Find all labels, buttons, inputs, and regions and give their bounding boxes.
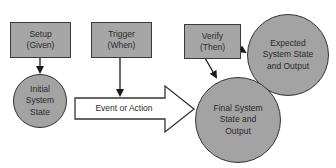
expected-state-label: Expected System State and Output: [263, 38, 314, 71]
edge-verify-to-final: [205, 58, 216, 77]
setup-node: Setup (Given): [10, 22, 71, 58]
final-state-label: Final System State and Output: [213, 103, 262, 136]
final-state-node: Final System State and Output: [195, 77, 281, 163]
trigger-label: Trigger (When): [108, 29, 136, 50]
verify-node: Verify (Then): [184, 24, 241, 59]
verify-label: Verify (Then): [200, 31, 225, 52]
trigger-node: Trigger (When): [91, 22, 152, 58]
initial-state-label: Initial System State: [26, 84, 54, 117]
event-arrow-label: Event or Action: [84, 103, 164, 113]
setup-label: Setup (Given): [27, 29, 55, 50]
initial-state-node: Initial System State: [13, 74, 67, 128]
